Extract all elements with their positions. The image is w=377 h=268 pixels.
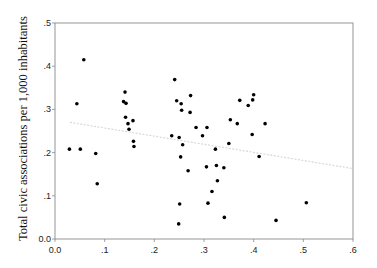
y-axis-title: Total civic associations per 1,000 inhab…: [16, 16, 30, 241]
data-point: [123, 90, 127, 94]
data-point: [177, 136, 181, 140]
data-point: [126, 122, 130, 126]
data-point: [222, 166, 226, 170]
data-point: [179, 155, 183, 159]
x-tick-label: .3: [200, 245, 208, 255]
data-point: [250, 133, 254, 137]
data-point: [274, 219, 278, 223]
data-point: [75, 102, 79, 106]
y-tick-label: .5: [43, 18, 51, 28]
y-tick-label: .3: [43, 104, 51, 114]
x-tick-label: .2: [151, 245, 159, 255]
data-point: [82, 58, 86, 62]
plot-frame: [55, 23, 353, 239]
x-axis: 0.0.1.2.3.4.5.6: [49, 239, 357, 255]
data-point: [201, 134, 205, 138]
plot-border: [55, 23, 353, 239]
data-point: [178, 202, 182, 206]
x-tick-label: .4: [250, 245, 258, 255]
y-axis: 0.0.1.2.3.4.5: [38, 18, 55, 244]
data-point: [175, 99, 179, 103]
data-point: [95, 182, 99, 186]
data-point: [127, 127, 131, 131]
data-point: [177, 222, 181, 226]
data-point: [180, 108, 184, 112]
data-point: [216, 179, 220, 183]
data-point: [238, 99, 242, 103]
data-point: [205, 165, 209, 169]
x-tick-label: .1: [101, 245, 109, 255]
data-point: [215, 164, 219, 168]
x-tick-label: 0.0: [49, 245, 62, 255]
y-tick-label: .2: [43, 148, 51, 158]
data-point: [181, 143, 185, 147]
data-point: [257, 155, 261, 159]
data-point: [227, 142, 231, 146]
data-point: [205, 126, 209, 130]
data-point: [246, 104, 250, 108]
y-tick-label: .1: [43, 191, 51, 201]
scatter-chart: 0.0.1.2.3.4.5.6 0.0.1.2.3.4.5 Total civi…: [0, 0, 377, 268]
data-point: [124, 102, 128, 106]
data-point: [68, 147, 72, 151]
data-point: [173, 78, 177, 82]
trend-line: [70, 122, 353, 168]
data-point: [210, 190, 214, 194]
data-point: [229, 118, 233, 122]
data-point: [188, 111, 192, 115]
data-point: [79, 147, 83, 151]
data-point: [186, 169, 190, 173]
data-point: [132, 140, 136, 144]
data-point: [263, 122, 267, 126]
regression-line: [70, 122, 353, 168]
data-point: [223, 216, 227, 220]
data-point: [305, 201, 309, 205]
x-tick-label: .5: [300, 245, 308, 255]
y-tick-label: .4: [43, 61, 51, 71]
data-point: [214, 147, 218, 151]
data-point: [251, 98, 255, 102]
data-point: [206, 201, 210, 205]
y-tick-label: 0.0: [38, 234, 51, 244]
data-point: [132, 145, 136, 149]
data-point: [179, 102, 183, 106]
x-tick-label: .6: [349, 245, 357, 255]
data-point: [194, 126, 198, 130]
data-point: [170, 134, 174, 138]
data-point: [131, 119, 135, 123]
data-point: [124, 115, 128, 119]
data-point: [94, 152, 98, 156]
data-point: [189, 94, 193, 98]
data-point: [235, 122, 239, 126]
data-point: [252, 93, 256, 97]
